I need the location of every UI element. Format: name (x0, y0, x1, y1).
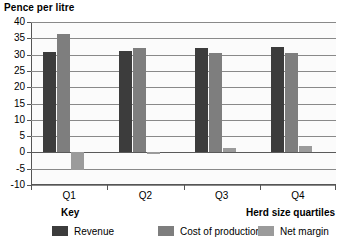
bar-q3-net-margin (223, 148, 236, 152)
y-tick-label: 0 (19, 147, 25, 157)
gridline (31, 22, 336, 23)
legend: RevenueCost of productionNet margin (0, 224, 339, 240)
bar-q2-revenue (119, 51, 132, 152)
x-axis-label-q1: Q1 (49, 190, 89, 201)
x-axis-label-q3: Q3 (202, 190, 242, 201)
y-tick-mark (27, 104, 31, 105)
x-axis-label-q4: Q4 (278, 190, 318, 201)
gridline (31, 38, 336, 39)
y-tick-mark (27, 71, 31, 72)
x-axis-caption: Herd size quartiles (246, 207, 335, 218)
legend-label: Cost of production (180, 226, 261, 237)
legend-swatch-icon (158, 226, 174, 236)
y-tick-mark (27, 87, 31, 88)
bar-q2-cost-of-production (133, 48, 146, 152)
bar-q3-revenue (195, 48, 208, 152)
x-tick-mark (260, 185, 261, 190)
bar-q1-cost-of-production (57, 34, 70, 152)
y-tick-mark (27, 169, 31, 170)
legend-item-revenue[interactable]: Revenue (52, 224, 114, 238)
y-tick-label: 20 (14, 82, 25, 92)
x-axis-label-q2: Q2 (125, 190, 165, 201)
legend-label: Revenue (74, 226, 114, 237)
bar-q4-cost-of-production (285, 53, 298, 152)
chart-title: Pence per litre (4, 2, 74, 13)
x-tick-mark (184, 185, 185, 190)
y-tick-mark (27, 55, 31, 56)
x-tick-mark (31, 185, 32, 190)
y-tick-label: 15 (14, 99, 25, 109)
y-tick-label: 40 (14, 17, 25, 27)
y-tick-mark (27, 38, 31, 39)
y-tick-label: 35 (14, 33, 25, 43)
bar-chart: Pence per litre 4035302520151050-5-10 Q1… (0, 0, 339, 246)
y-tick-label: 10 (14, 115, 25, 125)
bar-q1-revenue (43, 52, 56, 152)
bar-q1-net-margin (71, 152, 84, 170)
key-caption: Key (61, 207, 79, 218)
legend-swatch-icon (258, 226, 274, 236)
x-tick-mark (335, 185, 336, 190)
y-tick-label: 25 (14, 66, 25, 76)
y-tick-label: 5 (19, 131, 25, 141)
legend-item-net-margin[interactable]: Net margin (258, 224, 329, 238)
legend-swatch-icon (52, 226, 68, 236)
y-tick-label: -5 (16, 164, 25, 174)
bar-q2-net-margin (147, 152, 160, 154)
legend-item-cost-of-production[interactable]: Cost of production (158, 224, 261, 238)
y-tick-mark (27, 22, 31, 23)
x-tick-mark (107, 185, 108, 190)
bar-q4-net-margin (299, 146, 312, 153)
y-tick-mark (27, 136, 31, 137)
plot-area: 4035302520151050-5-10 (31, 22, 336, 185)
y-tick-label: 30 (14, 50, 25, 60)
y-tick-mark (27, 120, 31, 121)
bar-q3-cost-of-production (209, 53, 222, 153)
y-tick-mark (27, 152, 31, 153)
y-tick-label: -10 (11, 180, 25, 190)
legend-label: Net margin (280, 226, 329, 237)
bar-q4-revenue (271, 47, 284, 152)
